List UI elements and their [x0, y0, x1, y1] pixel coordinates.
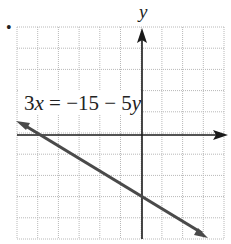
equation-label: 3x = −15 − 5y — [24, 91, 142, 115]
bullet-marker: • — [6, 19, 12, 36]
coordinate-graph: • y 3x = −15 − 5y — [0, 0, 231, 244]
y-axis-label: y — [137, 1, 148, 22]
grid-lines — [17, 27, 224, 239]
plotted-line — [16, 121, 208, 238]
